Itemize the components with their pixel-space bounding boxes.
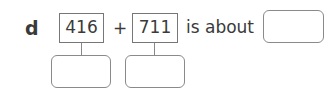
rounded-operand-1-box[interactable] (51, 55, 111, 88)
connector-line-1 (81, 43, 82, 55)
plus-sign: + (113, 14, 127, 42)
question-label: d (25, 14, 39, 42)
operand-2-box: 711 (132, 13, 178, 43)
rounded-operand-2-box[interactable] (125, 55, 185, 88)
connector-line-2 (154, 43, 155, 55)
estimate-answer-box[interactable] (263, 10, 324, 43)
is-about-text: is about (186, 13, 254, 41)
operand-1-box: 416 (59, 13, 104, 43)
